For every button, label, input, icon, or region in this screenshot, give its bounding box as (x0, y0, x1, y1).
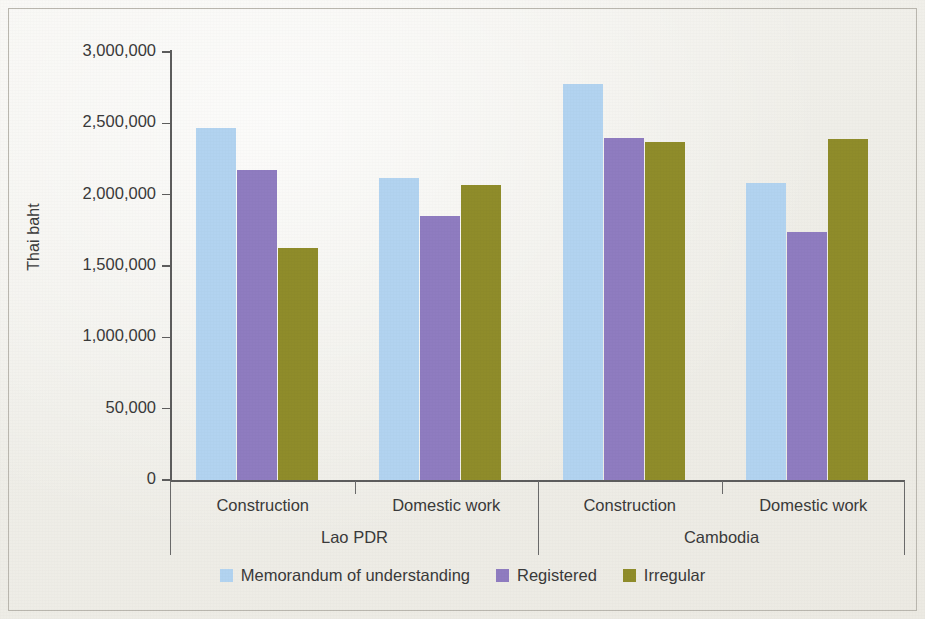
legend-swatch-icon (220, 569, 233, 582)
x-axis-group-label: Lao PDR (171, 528, 538, 547)
grouped-bar-chart: Thai baht 050,0001,000,0001,500,0002,000… (0, 0, 925, 619)
bar (237, 170, 277, 480)
y-axis-tick (162, 408, 171, 409)
legend-label: Memorandum of understanding (241, 566, 470, 585)
y-axis-tick-label: 2,500,000 (40, 112, 156, 131)
x-axis-category-label: Domestic work (355, 496, 539, 515)
bar (461, 185, 501, 480)
y-axis-tick (162, 123, 171, 124)
x-axis-category-label: Construction (171, 496, 355, 515)
y-axis-tick (162, 337, 171, 338)
bars-layer (171, 50, 905, 480)
category-tick (722, 481, 723, 494)
legend-item: Registered (496, 566, 597, 585)
bar (563, 84, 603, 480)
y-axis-tick (162, 51, 171, 52)
plot-area (171, 50, 905, 480)
y-axis-tick (162, 265, 171, 266)
y-axis-title: Thai baht (25, 157, 43, 317)
legend-item: Memorandum of understanding (220, 566, 470, 585)
chart-legend: Memorandum of understandingRegisteredIrr… (0, 566, 925, 585)
y-axis-tick-label: 3,000,000 (40, 41, 156, 60)
bar (746, 183, 786, 480)
bar (645, 142, 685, 480)
bar (379, 178, 419, 480)
y-axis-tick-label: 1,000,000 (40, 326, 156, 345)
bar (278, 248, 318, 480)
bar (828, 139, 868, 480)
chart-page: Thai baht 050,0001,000,0001,500,0002,000… (0, 0, 925, 619)
x-axis-category-label: Domestic work (722, 496, 906, 515)
bar (420, 216, 460, 480)
bar (787, 232, 827, 480)
y-axis-tick-label: 1,500,000 (40, 255, 156, 274)
y-axis-tick-label: 2,000,000 (40, 184, 156, 203)
bar (604, 138, 644, 480)
legend-label: Irregular (644, 566, 705, 585)
x-axis-category-label: Construction (538, 496, 722, 515)
legend-item: Irregular (623, 566, 705, 585)
y-axis-tick-label: 50,000 (40, 398, 156, 417)
y-axis-tick (162, 194, 171, 195)
legend-swatch-icon (623, 569, 636, 582)
y-axis-tick-label: 0 (40, 469, 156, 488)
legend-swatch-icon (496, 569, 509, 582)
x-axis-group-label: Cambodia (538, 528, 905, 547)
bar (196, 128, 236, 480)
category-tick (355, 481, 356, 494)
legend-label: Registered (517, 566, 597, 585)
